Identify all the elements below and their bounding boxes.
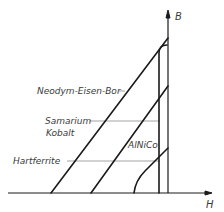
label-alnico: AlNiCo <box>127 140 158 150</box>
label-neodym-eisen-bor: Neodym-Eisen-Bor <box>37 86 122 96</box>
h-axis-label: H <box>206 199 214 210</box>
leader-lines <box>67 91 160 161</box>
b-axis-label: B <box>175 11 182 22</box>
b-axis-arrow-icon <box>166 10 170 18</box>
curve-alnico <box>159 45 167 193</box>
label-samarium: Samarium <box>45 116 91 126</box>
label-hartferrite: Hartferrite <box>13 156 61 166</box>
h-axis-arrow-icon <box>205 191 212 195</box>
label-kobalt: Kobalt <box>46 128 75 138</box>
curve-hartferrite <box>134 148 168 193</box>
bh-diagram: B H Neodym-Eisen-Bor Samarium Kobalt AlN… <box>0 0 224 212</box>
